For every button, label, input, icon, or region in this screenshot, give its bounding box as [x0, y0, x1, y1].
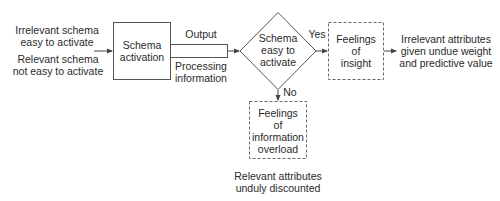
overload-outcome-line-1: Relevant attributes — [228, 170, 328, 182]
overload-line-4: overload — [249, 143, 307, 155]
insight-label: Feelings of insight — [328, 33, 384, 69]
input-relevant-schema-label: Relevant schema not easy to activate — [8, 53, 108, 77]
input-irrelevant-schema-label: Irrelevant schema easy to activate — [12, 24, 102, 48]
decision-label: Schema easy to activate — [250, 32, 306, 68]
yes-label: Yes — [306, 28, 328, 40]
overload-line-2: of — [249, 119, 307, 131]
no-label: No — [281, 86, 299, 98]
input-line-3: Relevant schema — [8, 53, 108, 65]
input-line-2: easy to activate — [12, 36, 102, 48]
overload-line-1: Feelings — [249, 107, 307, 119]
outcome-line-1: Irrelevant attributes — [396, 33, 496, 45]
overload-label: Feelings of information overload — [249, 107, 307, 155]
outcome-line-3: and predictive value — [396, 57, 496, 69]
input-line-4: not easy to activate — [8, 65, 108, 77]
overload-outcome-line-2: unduly discounted — [228, 182, 328, 194]
decision-line-3: activate — [250, 56, 306, 68]
decision-line-2: easy to — [250, 44, 306, 56]
process-line-1: Schema — [113, 39, 171, 51]
decision-line-1: Schema — [250, 32, 306, 44]
overload-line-3: information — [249, 131, 307, 143]
outcome-line-2: given undue weight — [396, 45, 496, 57]
output-label: Output — [176, 28, 226, 40]
schema-activation-label: Schema activation — [113, 39, 171, 63]
input-line-1: Irrelevant schema — [12, 24, 102, 36]
insight-outcome-label: Irrelevant attributes given undue weight… — [396, 33, 496, 69]
process-line-2: activation — [113, 51, 171, 63]
insight-line-2: of — [328, 45, 384, 57]
insight-line-3: insight — [328, 57, 384, 69]
insight-line-1: Feelings — [328, 33, 384, 45]
output-pipe — [171, 45, 228, 58]
overload-outcome-label: Relevant attributes unduly discounted — [228, 170, 328, 194]
processing-information-label: Processing information — [170, 60, 232, 84]
pipe-bottom-line-2: information — [170, 72, 232, 84]
pipe-bottom-line-1: Processing — [170, 60, 232, 72]
